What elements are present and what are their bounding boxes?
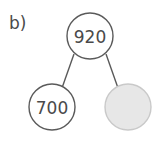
number-bond-figure: b) 920 700 [0,0,166,143]
whole-value-label: 920 [74,27,106,47]
number-bond-svg: 920 700 [0,0,166,143]
part-circle-right-blank[interactable] [105,84,151,130]
connector-line-left [62,54,74,88]
connector-line-right [106,54,118,88]
part-left-value-label: 700 [36,98,68,118]
